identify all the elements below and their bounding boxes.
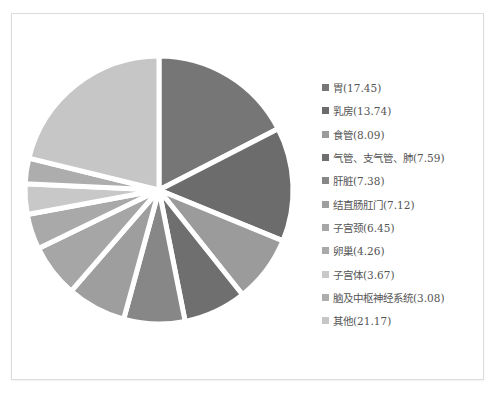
legend-item: 其他(21.17) [322,309,445,332]
legend-swatch-icon [322,107,329,114]
legend-item: 肝脏(7.38) [322,169,445,192]
legend-item: 食管(8.09) [322,123,445,146]
legend-item: 结直肠肛门(7.12) [322,192,445,215]
legend-item: 子宫颈(6.45) [322,216,445,239]
legend-swatch-icon [322,317,329,324]
legend-item: 乳房(13.74) [322,99,445,122]
legend-item: 胃(17.45) [322,76,445,99]
legend-item: 卵巢(4.26) [322,239,445,262]
legend-swatch-icon [322,154,329,161]
legend-item: 脑及中枢神经系统(3.08) [322,286,445,309]
legend-swatch-icon [322,177,329,184]
legend-swatch-icon [322,294,329,301]
legend-swatch-icon [322,84,329,91]
legend-swatch-icon [322,271,329,278]
legend-item: 子宫体(3.67) [322,262,445,285]
legend-swatch-icon [322,224,329,231]
legend-swatch-icon [322,247,329,254]
legend-swatch-icon [322,131,329,138]
legend-swatch-icon [322,201,329,208]
legend-item: 气管、支气管、肺(7.59) [322,146,445,169]
chart-legend: 胃(17.45) 乳房(13.74) 食管(8.09) 气管、支气管、肺(7.5… [322,76,445,332]
